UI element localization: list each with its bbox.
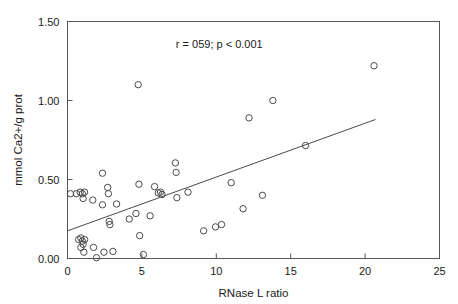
x-axis-ticks [68, 254, 440, 259]
y-axis-tick-labels: 0.000.501.001.50 [38, 16, 59, 265]
y-tick-label: 1.50 [38, 16, 59, 28]
data-point-marker [240, 206, 246, 212]
regression-trend-line [68, 119, 376, 230]
scatter-plot-figure: 0510152025 0.000.501.001.50 RNase L rati… [0, 0, 458, 304]
correlation-annotation: r = 059; p < 0.001 [176, 38, 263, 50]
data-point-marker [185, 189, 191, 195]
data-point-marker [73, 191, 79, 197]
data-point-marker [67, 191, 73, 197]
data-point-marker [90, 197, 96, 203]
x-tick-label: 25 [433, 265, 445, 277]
data-point-marker [371, 63, 377, 69]
x-tick-label: 10 [210, 265, 222, 277]
data-point-marker [147, 213, 153, 219]
data-point-marker [101, 249, 107, 255]
data-point-marker [110, 248, 116, 254]
data-point-marker [105, 191, 111, 197]
data-point-marker [81, 249, 87, 255]
data-point-marker [200, 228, 206, 234]
data-point-marker [93, 255, 99, 261]
plot-frame [68, 22, 440, 259]
x-tick-label: 15 [285, 265, 297, 277]
data-point-marker [212, 224, 218, 230]
y-tick-label: 0.50 [38, 174, 59, 186]
data-point-marker [173, 169, 179, 175]
data-point-marker [133, 210, 139, 216]
data-point-marker [80, 195, 86, 201]
data-point-marker [172, 160, 178, 166]
regression-line [68, 119, 376, 230]
y-tick-label: 1.00 [38, 95, 59, 107]
data-point-marker [113, 201, 119, 207]
data-point-marker [151, 183, 157, 189]
data-point-marker [174, 194, 180, 200]
data-point-marker [136, 232, 142, 238]
y-tick-label: 0.00 [38, 253, 59, 265]
data-point-marker [270, 97, 276, 103]
data-point-marker [135, 82, 141, 88]
x-axis-title: RNase L ratio [219, 287, 289, 299]
plot-border [68, 22, 440, 259]
data-point-marker [228, 179, 234, 185]
plot-canvas: 0510152025 0.000.501.001.50 RNase L rati… [0, 0, 458, 304]
data-point-marker [136, 181, 142, 187]
data-point-marker [140, 251, 146, 257]
y-axis-ticks [68, 22, 73, 259]
x-tick-label: 5 [139, 265, 145, 277]
x-tick-label: 0 [64, 265, 70, 277]
data-point-marker [246, 115, 252, 121]
data-points [67, 63, 377, 261]
data-point-marker [104, 184, 110, 190]
data-point-marker [218, 221, 224, 227]
data-point-marker [99, 202, 105, 208]
data-point-marker [90, 244, 96, 250]
data-point-marker [126, 216, 132, 222]
y-axis-title: mmol Ca2+/g prot [12, 93, 24, 186]
data-point-marker [259, 192, 265, 198]
data-point-marker [99, 170, 105, 176]
x-axis-tick-labels: 0510152025 [64, 265, 445, 277]
x-tick-label: 20 [359, 265, 371, 277]
